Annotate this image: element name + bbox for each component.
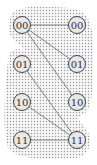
node-right-10: 10: [69, 94, 86, 111]
svg-text:00: 00: [16, 20, 29, 31]
node-left-11: 11: [14, 132, 31, 149]
node-right-11: 11: [69, 132, 86, 149]
svg-text:11: 11: [16, 135, 29, 146]
bipartite-diagram: 00 01 10 11 00 01 10 11: [0, 0, 97, 165]
svg-text:01: 01: [16, 59, 29, 70]
svg-text:10: 10: [71, 97, 84, 108]
svg-text:10: 10: [16, 97, 29, 108]
node-right-01: 01: [69, 56, 86, 73]
node-left-00: 00: [14, 17, 31, 34]
svg-text:11: 11: [71, 135, 84, 146]
node-left-01: 01: [14, 56, 31, 73]
node-right-00: 00: [69, 17, 86, 34]
node-left-10: 10: [14, 94, 31, 111]
svg-text:00: 00: [71, 20, 84, 31]
svg-text:01: 01: [71, 59, 84, 70]
